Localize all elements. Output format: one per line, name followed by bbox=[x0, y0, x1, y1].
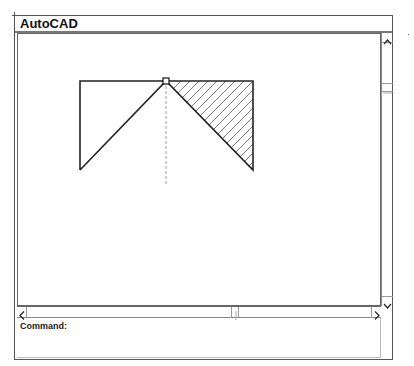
thumb-grip-icon bbox=[382, 89, 393, 98]
grip-point-icon[interactable] bbox=[163, 78, 169, 84]
stray-mark bbox=[408, 34, 409, 35]
chevron-up-icon bbox=[382, 37, 393, 47]
window-title: AutoCAD bbox=[20, 16, 78, 31]
horizontal-scroll-thumb[interactable] bbox=[231, 307, 239, 318]
drawing-svg bbox=[18, 34, 382, 307]
drawing-canvas[interactable] bbox=[17, 33, 381, 306]
vertical-scrollbar[interactable] bbox=[381, 33, 393, 306]
scroll-down-button[interactable] bbox=[382, 296, 393, 306]
scroll-right-button[interactable] bbox=[371, 307, 381, 318]
command-prompt-label: Command: bbox=[20, 321, 67, 331]
horizontal-scrollbar[interactable] bbox=[17, 306, 381, 318]
chevron-down-icon bbox=[382, 301, 393, 311]
title-bar[interactable]: AutoCAD bbox=[15, 16, 392, 33]
command-line[interactable]: Command: bbox=[17, 318, 381, 358]
scroll-left-button[interactable] bbox=[17, 307, 27, 318]
vertical-scroll-thumb[interactable] bbox=[382, 83, 393, 92]
scroll-up-button[interactable] bbox=[382, 33, 393, 43]
